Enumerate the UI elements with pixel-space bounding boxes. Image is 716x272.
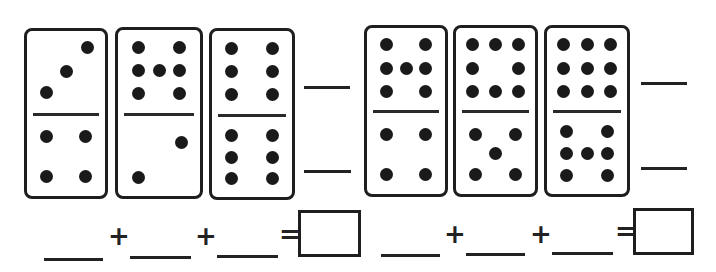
- pip: [225, 65, 238, 78]
- pip: [380, 85, 393, 98]
- pip: [225, 129, 238, 142]
- pip: [380, 38, 393, 51]
- plus-sign: +: [195, 223, 217, 249]
- plus-sign: +: [530, 221, 552, 247]
- pip: [466, 38, 479, 51]
- pip: [225, 88, 238, 101]
- pip: [509, 168, 522, 181]
- pip: [466, 62, 479, 75]
- domino-divider: [462, 110, 529, 113]
- pip: [153, 64, 166, 77]
- pip: [266, 151, 279, 164]
- domino-divider: [553, 110, 621, 113]
- addend-blank-1[interactable]: [381, 254, 440, 257]
- pip: [604, 62, 617, 75]
- pip: [601, 169, 614, 182]
- domino: [24, 28, 108, 199]
- pip: [419, 62, 432, 75]
- pip: [419, 38, 432, 51]
- pip: [601, 125, 614, 138]
- addend-blank-2[interactable]: [466, 253, 525, 256]
- domino: [209, 28, 295, 200]
- domino: [115, 27, 203, 199]
- pip: [380, 128, 393, 141]
- pip: [512, 62, 525, 75]
- domino: [453, 25, 538, 197]
- pip: [380, 168, 393, 181]
- pip: [489, 85, 502, 98]
- pip: [604, 38, 617, 51]
- domino-divider: [124, 113, 194, 116]
- domino-divider: [218, 114, 286, 117]
- pip: [419, 85, 432, 98]
- addend-blank-3[interactable]: [217, 255, 278, 258]
- pip: [225, 151, 238, 164]
- pip: [489, 38, 502, 51]
- pip: [175, 136, 188, 149]
- pip: [40, 86, 53, 99]
- pip: [266, 42, 279, 55]
- pip: [469, 168, 482, 181]
- pip: [466, 85, 479, 98]
- domino: [364, 25, 448, 197]
- pip: [557, 62, 570, 75]
- pip: [266, 65, 279, 78]
- pip: [81, 41, 94, 54]
- pip: [419, 128, 432, 141]
- plus-sign: +: [108, 223, 130, 249]
- pip: [132, 171, 145, 184]
- pip: [509, 128, 522, 141]
- pip: [40, 170, 53, 183]
- answer-box[interactable]: [633, 208, 694, 255]
- pip: [489, 147, 502, 160]
- top-sum-blank[interactable]: [641, 82, 687, 85]
- pip: [40, 130, 53, 143]
- pip: [581, 38, 594, 51]
- pip: [60, 65, 73, 78]
- pip: [173, 64, 186, 77]
- bottom-sum-blank[interactable]: [641, 167, 687, 170]
- pip: [469, 128, 482, 141]
- addend-blank-2[interactable]: [130, 256, 191, 259]
- addend-blank-3[interactable]: [552, 252, 613, 255]
- pip: [581, 85, 594, 98]
- pip: [79, 170, 92, 183]
- top-sum-blank[interactable]: [304, 86, 350, 89]
- pip: [560, 169, 573, 182]
- pip: [266, 172, 279, 185]
- pip: [560, 147, 573, 160]
- pip: [225, 42, 238, 55]
- domino-divider: [33, 113, 99, 116]
- pip: [173, 87, 186, 100]
- pip: [173, 41, 186, 54]
- domino-divider: [373, 110, 439, 113]
- pip: [225, 172, 238, 185]
- pip: [604, 85, 617, 98]
- plus-sign: +: [444, 221, 466, 247]
- pip: [581, 147, 594, 160]
- pip: [581, 62, 594, 75]
- pip: [512, 38, 525, 51]
- pip: [400, 62, 413, 75]
- pip: [557, 38, 570, 51]
- pip: [601, 147, 614, 160]
- pip: [419, 168, 432, 181]
- addend-blank-1[interactable]: [44, 258, 103, 261]
- pip: [132, 41, 145, 54]
- pip: [132, 87, 145, 100]
- domino: [544, 25, 630, 197]
- pip: [512, 85, 525, 98]
- pip: [132, 64, 145, 77]
- pip: [266, 88, 279, 101]
- pip: [266, 129, 279, 142]
- pip: [560, 125, 573, 138]
- pip: [79, 130, 92, 143]
- answer-box[interactable]: [298, 210, 361, 257]
- bottom-sum-blank[interactable]: [304, 170, 351, 173]
- pip: [380, 62, 393, 75]
- pip: [557, 85, 570, 98]
